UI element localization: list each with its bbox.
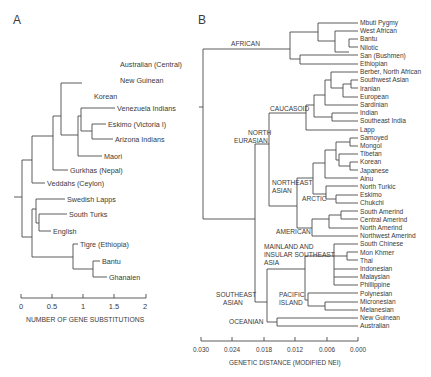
axis-b-title: GENETIC DISTANCE (MODIFIED NEI) bbox=[229, 359, 341, 367]
group-label-oceanian: OCEANIAN bbox=[229, 318, 264, 325]
group-label-mainland-se-asia: INSULAR SOUTHEAST bbox=[264, 251, 335, 258]
group-label-pacific-island: ISLAND bbox=[279, 299, 303, 306]
panel-b-group-labels: AFRICAN CAUCASOID NORTH EURASIAN NORTHEA… bbox=[216, 40, 335, 325]
group-label-northeast-asian: NORTHEAST bbox=[272, 179, 313, 186]
group-label-north-eurasian: NORTH bbox=[248, 129, 272, 136]
group-label-southeast-asian: SOUTHEAST bbox=[216, 291, 256, 298]
axis-b-tick: 0.024 bbox=[224, 346, 240, 353]
group-label-mainland-se-asia: ASIA bbox=[264, 259, 280, 266]
group-label-caucasoid: CAUCASOID bbox=[270, 105, 309, 112]
group-label-mainland-se-asia: MAINLAND AND bbox=[264, 243, 314, 250]
group-label-african: AFRICAN bbox=[231, 40, 260, 47]
group-label-southeast-asian: ASIAN bbox=[223, 299, 243, 306]
group-label-american: AMERICAN bbox=[276, 228, 311, 235]
group-label-north-eurasian: EURASIAN bbox=[234, 137, 268, 144]
axis-b-tick: 0.018 bbox=[256, 346, 272, 353]
panel-b-axis: 0.030 0.024 0.018 0.012 0.006 0.000 GENE… bbox=[193, 337, 366, 367]
panel-b-branches bbox=[199, 23, 358, 326]
panel-b-tree: AFRICAN CAUCASOID NORTH EURASIAN NORTHEA… bbox=[0, 0, 431, 377]
axis-b-tick: 0.012 bbox=[287, 346, 303, 353]
group-label-pacific-island: PACIFIC bbox=[279, 291, 305, 298]
axis-b-tick: 0.030 bbox=[193, 346, 209, 353]
group-label-northeast-asian: ASIAN bbox=[272, 187, 292, 194]
axis-b-tick: 0.000 bbox=[350, 346, 366, 353]
axis-b-tick: 0.006 bbox=[319, 346, 335, 353]
group-label-arctic: ARCTIC bbox=[302, 195, 327, 202]
